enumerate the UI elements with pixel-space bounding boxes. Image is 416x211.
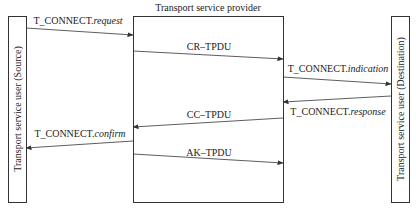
message-label: T_CONNECT.: [34, 128, 94, 139]
svg-text:T_CONNECT.response: T_CONNECT.response: [290, 106, 386, 117]
message-cr-tpdu: CR–TPDU: [133, 41, 283, 59]
message-label: T_CONNECT.: [290, 106, 350, 117]
message-connect-response: T_CONNECT.response: [283, 96, 391, 117]
message-label: AK–TPDU: [186, 147, 232, 158]
message-primitive: indication: [348, 63, 389, 74]
message-connect-request: T_CONNECT.request: [26, 15, 133, 35]
message-label: T_CONNECT.: [288, 63, 348, 74]
message-label: CC–TPDU: [187, 109, 232, 120]
message-connect-indication: T_CONNECT.indication: [283, 63, 391, 84]
message-primitive: confirm: [94, 128, 125, 139]
message-primitive: request: [94, 15, 123, 26]
message-ak-tpdu: AK–TPDU: [133, 147, 283, 163]
message-cc-tpdu: CC–TPDU: [133, 109, 283, 127]
message-label: T_CONNECT.: [33, 15, 93, 26]
provider-title: Transport service provider: [155, 2, 261, 13]
message-label: CR–TPDU: [187, 41, 232, 52]
destination-user-box: Transport service user (Destination): [392, 17, 410, 203]
svg-text:T_CONNECT.request: T_CONNECT.request: [33, 15, 122, 26]
message-connect-confirm: T_CONNECT.confirm: [26, 128, 133, 148]
arrow-right-icon: [26, 28, 133, 35]
source-user-label: Transport service user (Source): [12, 46, 24, 171]
message-primitive: response: [350, 106, 386, 117]
arrow-right-icon: [283, 77, 391, 84]
arrow-left-icon: [26, 141, 133, 148]
destination-user-label: Transport service user (Destination): [395, 37, 407, 181]
svg-text:T_CONNECT.confirm: T_CONNECT.confirm: [34, 128, 125, 139]
source-user-box: Transport service user (Source): [9, 17, 27, 203]
arrow-right-icon: [133, 51, 283, 59]
arrow-left-icon: [283, 96, 391, 102]
svg-text:T_CONNECT.indication: T_CONNECT.indication: [288, 63, 389, 74]
connection-establishment-diagram: Transport service provider Transport ser…: [0, 0, 416, 211]
